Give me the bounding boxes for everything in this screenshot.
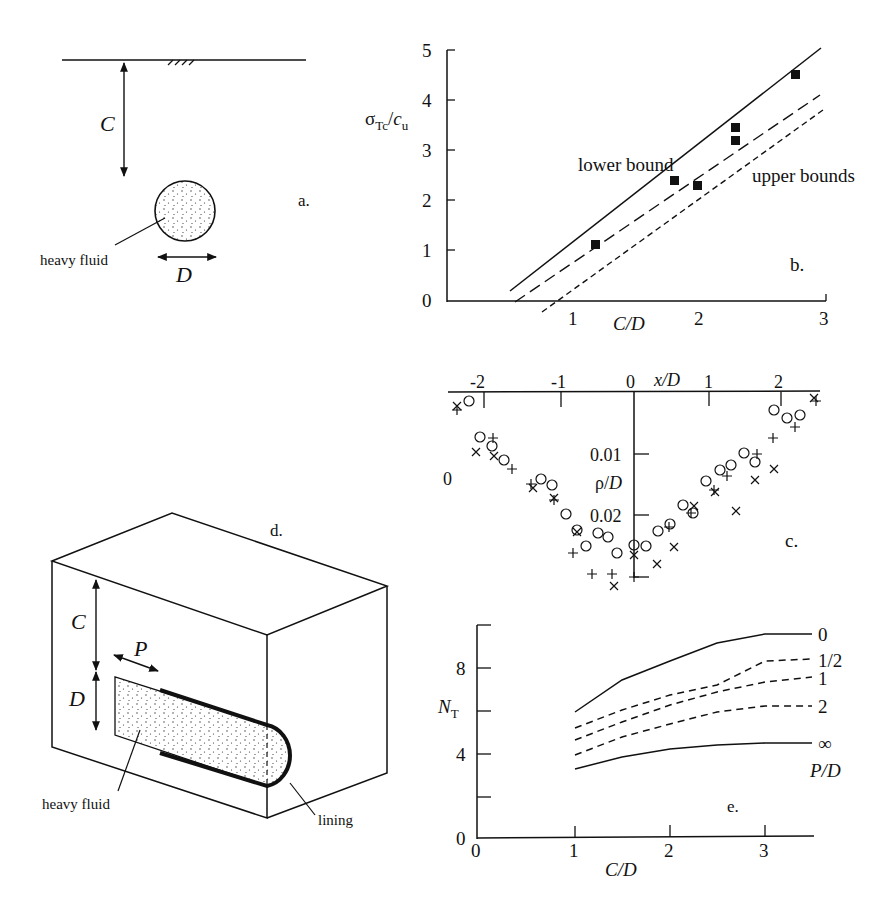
block-top-face bbox=[52, 513, 387, 635]
x-ticks bbox=[484, 392, 781, 408]
y-ticks bbox=[447, 50, 455, 250]
svg-text:3: 3 bbox=[759, 840, 769, 861]
x-axis-label: C/D bbox=[605, 859, 637, 880]
svg-text:1: 1 bbox=[818, 668, 828, 689]
svg-text:0: 0 bbox=[422, 290, 432, 311]
x-tick-labels: 1 2 3 bbox=[568, 308, 829, 329]
y-tick-labels: 5 4 3 2 1 0 bbox=[422, 40, 432, 311]
svg-text:0: 0 bbox=[626, 372, 635, 392]
panel-d-annotations: C D P heavy fluid lining d. bbox=[42, 521, 354, 828]
svg-text:∞: ∞ bbox=[818, 733, 832, 754]
fluid-leader-line bbox=[115, 218, 165, 245]
curve-labels: 0 1/2 1 2 ∞ bbox=[818, 624, 842, 754]
svg-text:3: 3 bbox=[422, 140, 432, 161]
y-axis-label: NT bbox=[437, 696, 459, 721]
x-axis-label: x/D bbox=[653, 370, 680, 390]
fluid-label: heavy fluid bbox=[42, 796, 110, 812]
svg-text:2: 2 bbox=[422, 190, 432, 211]
panel-c-chart: -2 -1 0 1 2 x/D 0 0.01 0.02 ρ/D bbox=[443, 370, 821, 590]
figure-canvas: C heavy fluid D a. 5 4 3 2 1 0 1 2 3 σT bbox=[0, 0, 891, 920]
curve-pd-inf bbox=[575, 743, 812, 769]
svg-text:2: 2 bbox=[774, 372, 783, 392]
lining-label: lining bbox=[318, 812, 354, 828]
pressure-label: P bbox=[133, 636, 147, 661]
x-tick-labels: 0 1 2 3 bbox=[471, 840, 769, 861]
x-tick-labels: -2 -1 0 1 2 bbox=[470, 372, 783, 392]
svg-text:1: 1 bbox=[568, 308, 578, 329]
svg-text:4: 4 bbox=[456, 744, 466, 765]
svg-text:0.02: 0.02 bbox=[590, 506, 622, 526]
svg-text:2: 2 bbox=[664, 840, 674, 861]
curve-pd-0 bbox=[575, 634, 812, 712]
panel-a-label: a. bbox=[298, 191, 310, 210]
panel-d-label: d. bbox=[270, 521, 283, 540]
panel-c-label: c. bbox=[785, 530, 798, 551]
y-ticks bbox=[477, 668, 491, 797]
panel-d-diagram bbox=[52, 513, 387, 818]
svg-text:3: 3 bbox=[819, 308, 829, 329]
svg-text:1: 1 bbox=[422, 240, 432, 261]
lining-leader-line bbox=[290, 783, 315, 815]
x-axis bbox=[477, 836, 814, 838]
svg-text:2: 2 bbox=[694, 308, 704, 329]
svg-text:4: 4 bbox=[422, 90, 432, 111]
svg-text:8: 8 bbox=[456, 658, 466, 679]
svg-text:0: 0 bbox=[443, 469, 452, 489]
panel-b-label: b. bbox=[790, 254, 804, 275]
svg-text:-2: -2 bbox=[470, 372, 485, 392]
curves bbox=[575, 634, 812, 769]
panel-b-chart: 5 4 3 2 1 0 1 2 3 σTc/cu C/D lower bound… bbox=[365, 40, 855, 334]
fluid-label: heavy fluid bbox=[40, 252, 108, 268]
svg-text:0: 0 bbox=[818, 624, 828, 645]
svg-text:0: 0 bbox=[456, 828, 466, 849]
y-tick-labels: 8 4 0 bbox=[456, 658, 466, 849]
diameter-label: D bbox=[175, 262, 192, 287]
y-axis-label: ρ/D bbox=[595, 473, 622, 493]
panel-e-chart: 8 4 0 0 1 2 3 C/D NT 0 1/2 1 2 ∞ P/D e. bbox=[437, 624, 842, 880]
svg-text:0.01: 0.01 bbox=[590, 445, 622, 465]
block-side-face bbox=[267, 586, 387, 818]
svg-text:2: 2 bbox=[818, 696, 828, 717]
y-ticks bbox=[634, 454, 649, 577]
svg-text:5: 5 bbox=[422, 40, 432, 61]
svg-text:-1: -1 bbox=[551, 372, 566, 392]
svg-text:0: 0 bbox=[471, 840, 481, 861]
panel-e-label: e. bbox=[727, 797, 739, 816]
upper-bound-line-2 bbox=[542, 110, 823, 312]
x-axis-label: C/D bbox=[613, 313, 645, 334]
tunnel-fluid bbox=[115, 677, 290, 786]
curve-pd-1 bbox=[575, 677, 812, 740]
diameter-label: D bbox=[68, 686, 85, 711]
plus-markers bbox=[452, 396, 821, 582]
y-axis-label: σTc/cu bbox=[365, 108, 409, 133]
depth-label: C bbox=[100, 111, 115, 136]
legend-title: P/D bbox=[809, 760, 841, 781]
depth-label: C bbox=[71, 609, 86, 634]
upper-bound-line-1 bbox=[515, 95, 820, 302]
lower-bound-annotation: lower bound bbox=[578, 154, 674, 175]
cross-markers bbox=[453, 394, 818, 590]
svg-text:1: 1 bbox=[704, 372, 713, 392]
upper-bound-annotation: upper bounds bbox=[752, 165, 855, 186]
panel-a: C heavy fluid D a. bbox=[40, 60, 310, 287]
tunnel-circle bbox=[155, 181, 215, 241]
svg-text:1: 1 bbox=[569, 840, 579, 861]
